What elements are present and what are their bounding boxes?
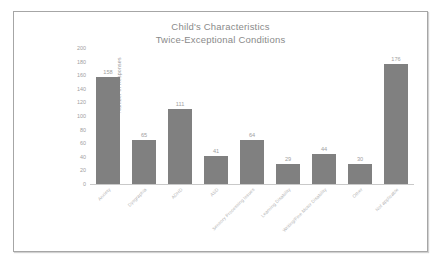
- bar-group: 158Anxiety: [90, 48, 126, 184]
- y-axis-tick: 20: [80, 167, 86, 173]
- y-axis-tick: 140: [77, 86, 86, 92]
- bar[interactable]: [204, 156, 228, 184]
- bar-group: 41ASD: [198, 48, 234, 184]
- chart-title-line-2: Twice-Exceptional Conditions: [14, 33, 427, 46]
- bar[interactable]: [348, 164, 372, 184]
- bar[interactable]: [276, 164, 300, 184]
- bar[interactable]: [240, 140, 264, 184]
- x-axis-category-label: Dysgraphia: [127, 187, 148, 208]
- bar-group: 44Writing/Fine Motor Disability: [306, 48, 342, 184]
- y-axis-tick: 0: [83, 181, 86, 187]
- y-axis-tick: 100: [77, 113, 86, 119]
- bar-value-label: 30: [357, 156, 363, 162]
- y-axis-tick: 40: [80, 154, 86, 160]
- y-axis-tick: 60: [80, 140, 86, 146]
- y-axis-tick: 120: [77, 99, 86, 105]
- bar[interactable]: [312, 154, 336, 184]
- chart-title: Child's Characteristics Twice-Exceptiona…: [14, 20, 427, 46]
- bar[interactable]: [96, 77, 120, 184]
- y-axis-tick: 160: [77, 72, 86, 78]
- x-axis-category-label: Other: [352, 187, 364, 199]
- bar-group: 65Dysgraphia: [126, 48, 162, 184]
- bar-group: 111ADHD: [162, 48, 198, 184]
- y-axis-tick: 180: [77, 59, 86, 65]
- chart-frame: Child's Characteristics Twice-Exceptiona…: [13, 11, 428, 252]
- x-axis-category-label: Learning Disability: [260, 187, 291, 218]
- bar-value-label: 158: [103, 69, 112, 75]
- bar-value-label: 41: [213, 148, 219, 154]
- x-axis-category-label: ASD: [209, 187, 219, 197]
- x-axis-category-label: Anxiety: [97, 187, 112, 202]
- bar-value-label: 29: [285, 156, 291, 162]
- x-axis-category-label: Not applicable: [374, 187, 399, 212]
- bar-value-label: 111: [176, 101, 185, 107]
- bar[interactable]: [132, 140, 156, 184]
- bar-value-label: 44: [321, 146, 327, 152]
- x-axis-line: [90, 184, 414, 185]
- x-axis-category-label: Writing/Fine Motor Disability: [282, 187, 328, 233]
- plot-area: Number of Responses 20018016014012010080…: [90, 48, 414, 184]
- bar-value-label: 176: [391, 56, 400, 62]
- bar-group: 30Other: [342, 48, 378, 184]
- bar-group: 176Not applicable: [378, 48, 414, 184]
- bar-value-label: 64: [249, 132, 255, 138]
- bar-group: 29Learning Disability: [270, 48, 306, 184]
- y-axis-tick: 200: [77, 45, 86, 51]
- y-axis-tick: 80: [80, 127, 86, 133]
- x-axis-category-label: ADHD: [171, 187, 184, 200]
- x-axis-category-label: Sensory Processing Issues: [211, 187, 255, 231]
- chart-title-line-1: Child's Characteristics: [14, 20, 427, 33]
- bar-group: 64Sensory Processing Issues: [234, 48, 270, 184]
- bar[interactable]: [384, 64, 408, 184]
- bar[interactable]: [168, 109, 192, 184]
- bar-value-label: 65: [141, 132, 147, 138]
